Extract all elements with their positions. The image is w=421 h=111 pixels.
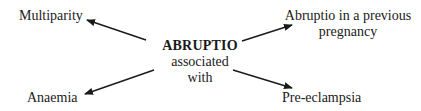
node-anaemia: Anaemia bbox=[27, 90, 78, 106]
center-line2: associated bbox=[150, 54, 250, 70]
center-node: ABRUPTIO associated with bbox=[150, 38, 250, 86]
center-title: ABRUPTIO bbox=[150, 38, 250, 54]
node-previous-line2: pregnancy bbox=[283, 24, 413, 40]
node-previous-line1: Abruptio in a previous bbox=[283, 8, 413, 24]
arrow-to-multiparity bbox=[87, 20, 146, 40]
arrow-to-anaemia bbox=[85, 70, 154, 94]
node-preeclampsia: Pre-eclampsia bbox=[282, 90, 361, 106]
node-previous-abruptio: Abruptio in a previous pregnancy bbox=[283, 8, 413, 40]
center-line3: with bbox=[150, 70, 250, 86]
node-multiparity: Multiparity bbox=[19, 8, 83, 24]
